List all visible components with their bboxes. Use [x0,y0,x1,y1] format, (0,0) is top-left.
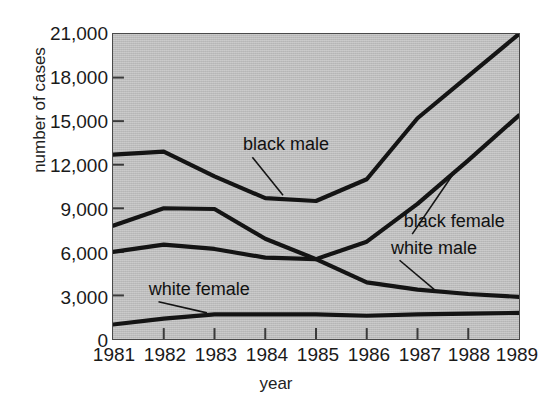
y-tick-label: 6,000 [34,244,108,263]
x-axis-tick-marks [164,328,469,339]
y-tick-label: 3,000 [34,288,108,307]
y-tick-label: 12,000 [34,156,108,175]
series-label-black-male: black male [243,135,329,153]
line-chart-figure: number of cases 21,000 18,000 15,000 12,… [0,0,552,417]
x-axis-title: year [0,374,552,394]
plot-area: black maleblack femalewhite malewhite fe… [112,33,520,340]
series-label-white-female: white female [149,280,250,298]
series-label-black-female: black female [404,212,505,230]
series-line-black-male [113,34,519,201]
y-tick-label: 15,000 [34,112,108,131]
x-tick-label: 1989 [487,345,547,364]
y-tick-label: 18,000 [34,68,108,87]
leader-line-black-male [252,157,283,195]
y-tick-label: 9,000 [34,200,108,219]
leader-line-white-female [158,302,206,313]
x-axis-tick-labels: 1981 1982 1983 1984 1985 1986 1987 1988 … [0,345,552,373]
y-tick-label: 21,000 [34,24,108,43]
y-axis-tick-marks [113,78,124,296]
series-label-white-male: white male [391,239,477,257]
series-line-white-female [113,313,519,325]
